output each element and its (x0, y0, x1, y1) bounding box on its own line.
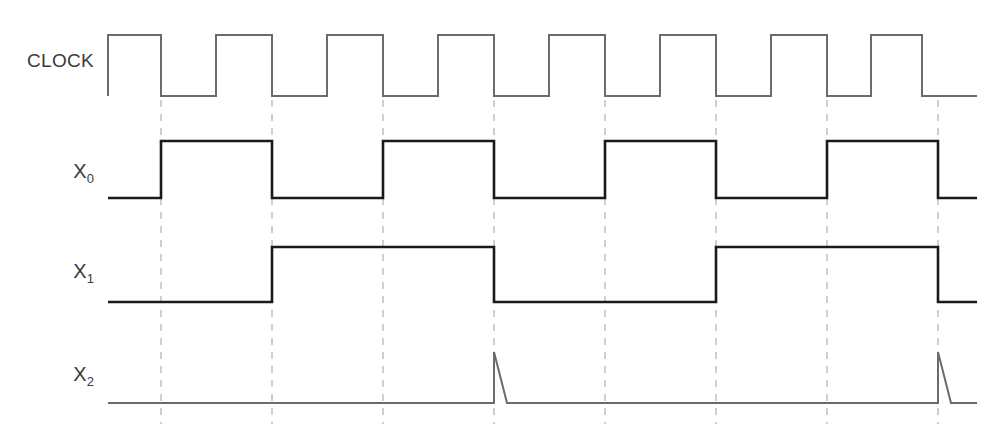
x0-waveform (108, 141, 977, 198)
clock-label-text: CLOCK (27, 50, 94, 71)
x0-row-label: X0 (73, 160, 94, 186)
x0-label-subscript: 0 (87, 171, 94, 186)
clock-row-label: CLOCK (27, 50, 94, 72)
x0-label-text: X (73, 160, 87, 182)
clock-waveform (108, 35, 977, 96)
waveform-canvas (0, 0, 997, 432)
x2-label-text: X (73, 363, 87, 385)
x2-waveform-group (108, 352, 977, 403)
x0-waveform-group (108, 141, 977, 198)
x2-label-subscript: 2 (87, 374, 94, 389)
gridlines-group (161, 100, 938, 424)
x1-waveform-group (108, 247, 977, 302)
clock-waveform-group (108, 35, 977, 96)
timing-diagram-figure: CLOCK X0 X1 X2 (0, 0, 997, 432)
x1-waveform (108, 247, 977, 302)
x1-label-subscript: 1 (87, 271, 94, 286)
x1-row-label: X1 (73, 260, 94, 286)
x2-row-label: X2 (73, 363, 94, 389)
x2-waveform (108, 352, 977, 403)
x1-label-text: X (73, 260, 87, 282)
